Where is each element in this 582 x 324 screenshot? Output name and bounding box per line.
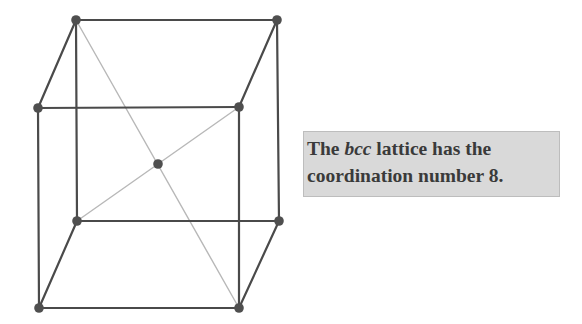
atom-back-bottom-right xyxy=(274,216,284,226)
atom-front-top-right xyxy=(234,102,244,112)
caption-line-1: The bcc lattice has the xyxy=(307,135,559,162)
cube-edge xyxy=(239,20,277,107)
cube-edge xyxy=(76,20,77,221)
cube-edge xyxy=(38,107,239,108)
caption-text: lattice has the xyxy=(371,138,491,159)
caption-italic-term: bcc xyxy=(344,138,371,159)
atom-back-top-right xyxy=(272,15,282,25)
atom-body-center xyxy=(153,159,163,169)
atom-front-bottom-right xyxy=(234,303,244,313)
atom-back-bottom-left xyxy=(72,216,82,226)
atom-back-top-left xyxy=(71,15,81,25)
atom-front-bottom-left xyxy=(34,303,44,313)
cube-edge xyxy=(38,20,76,108)
cube-edge xyxy=(277,20,279,221)
cube-edge xyxy=(39,221,77,308)
caption-line-2: coordination number 8. xyxy=(307,162,559,189)
caption-box: The bcc lattice has the coordination num… xyxy=(303,131,560,197)
cube-edge xyxy=(38,108,39,308)
lattice-atoms xyxy=(33,15,284,313)
cube-edge xyxy=(239,221,279,308)
caption-text: The xyxy=(307,138,344,159)
atom-front-top-left xyxy=(33,103,43,113)
